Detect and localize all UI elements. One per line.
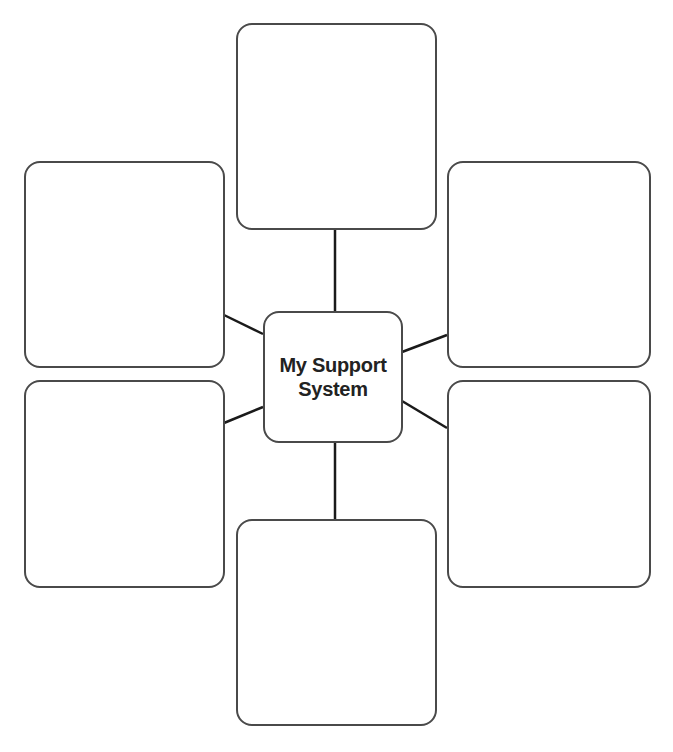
connector-left-upper <box>224 315 263 334</box>
center-title: My Support System <box>280 353 387 401</box>
connector-right-lower <box>402 401 447 428</box>
support-box-right-lower[interactable] <box>447 380 651 588</box>
support-box-top[interactable] <box>236 23 437 230</box>
center-title-line2: System <box>280 377 387 401</box>
support-box-left-upper[interactable] <box>24 161 225 368</box>
connector-right-upper <box>402 335 447 352</box>
center-title-line1: My Support <box>280 353 387 377</box>
center-node: My Support System <box>263 311 403 443</box>
support-box-right-upper[interactable] <box>447 161 651 368</box>
connector-left-lower <box>224 407 263 423</box>
support-box-bottom[interactable] <box>236 519 437 726</box>
support-box-left-lower[interactable] <box>24 380 225 588</box>
